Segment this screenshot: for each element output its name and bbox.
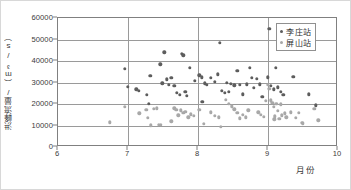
y-axis-tick-label: 50000 xyxy=(31,34,53,43)
data-point xyxy=(289,111,292,114)
data-point xyxy=(172,84,175,87)
data-point xyxy=(209,76,212,79)
data-point xyxy=(177,114,180,117)
chart-legend: 李庄站 屏山站 xyxy=(276,23,316,51)
legend-marker-icon xyxy=(280,41,283,44)
y-axis-tick-label: 20000 xyxy=(31,99,53,108)
data-point xyxy=(213,114,216,117)
gridline-horizontal xyxy=(58,126,336,127)
data-point xyxy=(192,114,195,117)
data-point xyxy=(238,116,241,119)
data-point xyxy=(250,76,253,79)
y-axis-tick-label: 60000 xyxy=(31,13,53,22)
data-point xyxy=(248,66,251,69)
chart-screenshot: 洪峰流量/（m³/s） 0100002000030000400005000060… xyxy=(0,0,351,190)
data-point xyxy=(224,98,227,101)
data-point xyxy=(283,112,286,115)
legend-item-label: 李庄站 xyxy=(286,26,311,37)
data-point xyxy=(262,115,265,118)
data-point xyxy=(273,115,276,118)
x-axis-tick-label: 9 xyxy=(265,149,269,158)
data-point xyxy=(155,107,158,110)
data-point xyxy=(219,125,222,128)
x-axis-tick-mark xyxy=(267,146,268,150)
x-axis-tick-mark xyxy=(337,146,338,150)
legend-item[interactable]: 屏山站 xyxy=(280,37,311,48)
data-point xyxy=(170,120,173,123)
data-point xyxy=(178,93,181,96)
data-point xyxy=(185,94,188,97)
data-point xyxy=(149,74,152,77)
data-point xyxy=(268,87,271,90)
data-point xyxy=(223,91,226,94)
data-point xyxy=(200,100,203,103)
y-axis-tick-label: 40000 xyxy=(31,56,53,65)
data-point xyxy=(268,27,271,30)
data-point xyxy=(233,84,236,87)
data-point xyxy=(272,87,275,90)
data-point xyxy=(297,111,300,114)
data-point xyxy=(274,66,277,69)
data-point xyxy=(273,118,276,121)
data-point xyxy=(217,115,220,118)
data-point xyxy=(161,81,164,84)
data-point xyxy=(261,95,264,98)
data-point xyxy=(225,81,228,84)
x-axis-title: 月份 xyxy=(296,163,315,175)
data-point xyxy=(258,83,261,86)
data-point xyxy=(184,110,187,113)
data-point xyxy=(307,93,310,96)
data-point xyxy=(317,118,320,121)
data-point xyxy=(200,76,203,79)
y-axis-tick-labels: 0100002000030000400005000060000 xyxy=(17,17,53,146)
data-point xyxy=(252,86,255,89)
data-point xyxy=(227,90,230,93)
x-axis-tick-label: 10 xyxy=(333,149,341,158)
y-axis-tick-label: 10000 xyxy=(31,120,53,129)
data-point xyxy=(245,83,248,86)
data-point xyxy=(167,83,170,86)
data-point xyxy=(163,51,166,54)
data-point xyxy=(238,83,241,86)
x-axis-tick-label: 7 xyxy=(125,149,129,158)
data-point xyxy=(198,108,201,111)
data-point xyxy=(188,66,191,69)
data-point xyxy=(312,107,315,110)
data-point xyxy=(218,41,221,44)
legend-item[interactable]: 李庄站 xyxy=(280,26,311,37)
gridline-horizontal xyxy=(58,61,336,62)
gridline-horizontal xyxy=(58,104,336,105)
data-point xyxy=(294,116,297,119)
data-point xyxy=(165,78,168,81)
data-point xyxy=(247,109,250,112)
data-point xyxy=(272,105,275,108)
data-point xyxy=(282,93,285,96)
y-axis-title-text: 洪峰流量/（m³/s） xyxy=(3,33,14,130)
data-point xyxy=(235,111,238,114)
data-point xyxy=(276,109,279,112)
data-point xyxy=(147,102,150,105)
data-point xyxy=(158,63,161,66)
y-axis-title: 洪峰流量/（m³/s） xyxy=(1,17,15,146)
data-point xyxy=(186,115,189,118)
data-point xyxy=(123,67,126,70)
gridline-vertical xyxy=(128,18,129,145)
x-axis-tick-label: 8 xyxy=(195,149,199,158)
data-point xyxy=(182,54,185,57)
x-axis-tick-mark xyxy=(57,146,58,150)
data-point xyxy=(123,105,126,108)
x-axis-tick-label: 6 xyxy=(55,149,59,158)
y-axis-tick-label: 30000 xyxy=(31,77,53,86)
data-point xyxy=(145,93,148,96)
data-point xyxy=(241,93,244,96)
data-point xyxy=(277,117,280,120)
gridline-vertical xyxy=(198,18,199,145)
data-point xyxy=(175,108,178,111)
data-point xyxy=(146,116,149,119)
x-axis-tick-mark xyxy=(127,146,128,150)
data-point xyxy=(205,83,208,86)
x-axis-tick-mark xyxy=(197,146,198,150)
data-point xyxy=(209,110,212,113)
data-point xyxy=(144,108,147,111)
data-point xyxy=(266,75,269,78)
